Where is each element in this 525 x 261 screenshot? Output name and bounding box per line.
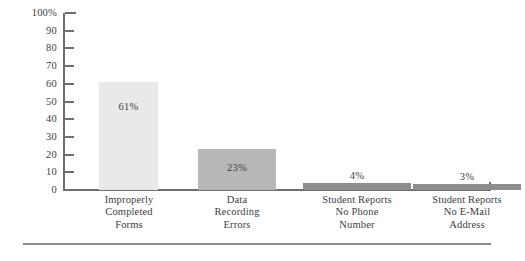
- category-line: No Phone: [299, 206, 415, 218]
- bar-student-reports-no-phone-number[interactable]: 4%: [303, 183, 411, 190]
- category-line: Forms: [83, 219, 175, 231]
- y-tick-label-20: 20: [1, 150, 57, 161]
- bar-student-reports-no-email-address[interactable]: 3%: [413, 184, 521, 190]
- category-label-student-reports-no-phone-number: Student Reports No Phone Number: [299, 194, 415, 231]
- bar-value-label-3: 4%: [303, 170, 411, 181]
- y-tick-label-80: 80: [1, 43, 57, 54]
- category-line: Recording: [191, 206, 283, 218]
- category-line: Student Reports: [409, 194, 525, 206]
- category-line: Student Reports: [299, 194, 415, 206]
- y-tick-label-30: 30: [1, 132, 57, 143]
- bar-value-label-2: 23%: [198, 162, 276, 173]
- category-line: Address: [409, 219, 525, 231]
- category-line: Improperly: [83, 194, 175, 206]
- category-label-improperly-completed-forms: Improperly Completed Forms: [83, 194, 175, 231]
- y-tick-label-60: 60: [1, 79, 57, 90]
- category-line: Number: [299, 219, 415, 231]
- y-tick-label-40: 40: [1, 114, 57, 125]
- x-axis-category-labels: Improperly Completed Forms Data Recordin…: [63, 194, 491, 240]
- category-line: Completed: [83, 206, 175, 218]
- bar-value-label-4: 3%: [413, 171, 521, 182]
- bars-layer: 61% 23% 4% 3%: [63, 13, 491, 190]
- category-line: No E-Mail: [409, 206, 525, 218]
- category-line: Errors: [191, 219, 283, 231]
- category-label-data-recording-errors: Data Recording Errors: [191, 194, 283, 231]
- y-tick-label-0: 0: [1, 185, 57, 196]
- bar-data-recording-errors[interactable]: 23%: [198, 149, 276, 190]
- bar-value-label-1: 61%: [99, 101, 158, 112]
- y-tick-label-90: 90: [1, 26, 57, 37]
- bar-improperly-completed-forms[interactable]: 61%: [99, 82, 158, 190]
- category-label-student-reports-no-email-address: Student Reports No E-Mail Address: [409, 194, 525, 231]
- y-tick-label-10: 10: [1, 167, 57, 178]
- y-tick-label-50: 50: [1, 97, 57, 108]
- y-tick-label-100: 100%: [1, 8, 57, 19]
- y-axis-labels: 100% 90 80 70 60 50 40 30 20 10 0: [0, 0, 57, 200]
- bottom-divider-rule: [23, 243, 491, 245]
- category-line: Data: [191, 194, 283, 206]
- y-tick-label-70: 70: [1, 61, 57, 72]
